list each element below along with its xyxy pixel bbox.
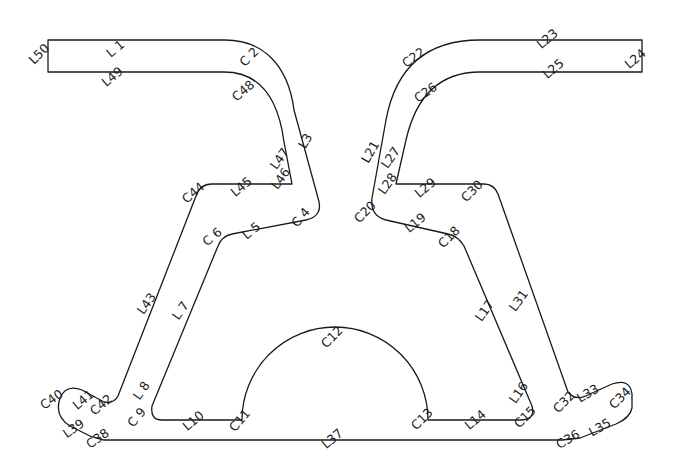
profile-diagram: L 1C 2L3C 4L 5C 6L 7L 8C 9L10C11C12C13L1… <box>0 0 686 474</box>
